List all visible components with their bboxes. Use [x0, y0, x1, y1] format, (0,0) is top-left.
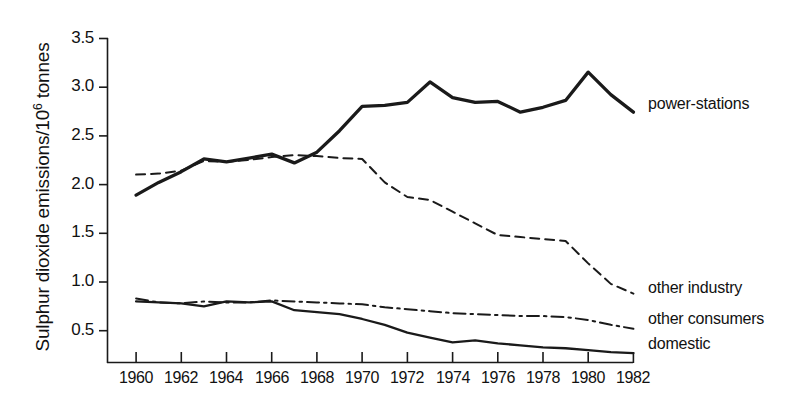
- x-tick-label-1968: 1968: [293, 369, 341, 387]
- series-label-power-stations: power-stations: [648, 95, 749, 113]
- y-tick-label-2-0: 2.0: [48, 174, 94, 194]
- x-tick-label-1966: 1966: [248, 369, 296, 387]
- series-label-other-industry: other industry: [648, 279, 742, 297]
- y-axis-ticks: [99, 39, 108, 331]
- y-tick-label-1-0: 1.0: [48, 271, 94, 291]
- series-label-domestic: domestic: [648, 335, 710, 353]
- x-tick-label-1978: 1978: [519, 369, 567, 387]
- series-label-other-consumers: other consumers: [648, 310, 764, 328]
- x-tick-label-1982: 1982: [609, 369, 657, 387]
- series-line-domestic: [136, 301, 633, 353]
- x-tick-label-1962: 1962: [157, 369, 205, 387]
- y-tick-label-3-5: 3.5: [48, 28, 94, 48]
- y-tick-label-1-5: 1.5: [48, 222, 94, 242]
- axis-lines: [107, 38, 633, 363]
- chart-figure: Sulphur dioxide emissions/106 tonnes: [0, 0, 796, 413]
- y-tick-label-2-5: 2.5: [48, 125, 94, 145]
- x-tick-label-1972: 1972: [383, 369, 431, 387]
- series-paths: [136, 72, 633, 353]
- x-tick-label-1980: 1980: [564, 369, 612, 387]
- x-tick-label-1976: 1976: [474, 369, 522, 387]
- x-tick-label-1964: 1964: [202, 369, 250, 387]
- series-line-power-stations: [136, 72, 633, 195]
- x-axis-ticks: [136, 352, 633, 363]
- y-tick-label-0-5: 0.5: [48, 320, 94, 340]
- y-tick-label-3-0: 3.0: [48, 76, 94, 96]
- series-line-other-industry: [136, 155, 633, 294]
- x-tick-label-1960: 1960: [112, 369, 160, 387]
- x-tick-label-1970: 1970: [338, 369, 386, 387]
- x-tick-label-1974: 1974: [429, 369, 477, 387]
